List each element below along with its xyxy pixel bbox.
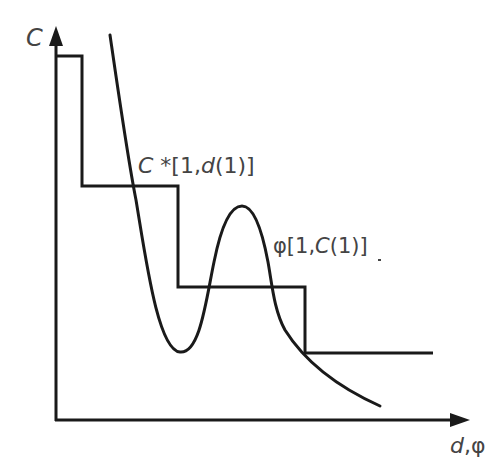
x-axis — [55, 413, 470, 427]
y-axis-label: C — [26, 24, 43, 52]
x-axis-label-rest: ,φ — [464, 433, 486, 458]
curve-phi — [110, 35, 380, 406]
label-phi-dot — [378, 259, 381, 261]
label-c-star: C *[1,d(1)] — [138, 153, 255, 178]
x-axis-label: d,φ — [450, 433, 485, 458]
label-phi: φ[1,C(1)] — [273, 234, 368, 258]
x-axis-label-d: d — [450, 433, 465, 458]
step-function-c-star — [57, 56, 433, 353]
y-axis — [49, 26, 63, 421]
y-axis-arrow-icon — [49, 26, 63, 46]
x-axis-arrow-icon — [450, 413, 470, 427]
diagram-canvas: C d,φ C *[1,d(1)] φ[1,C(1)] — [0, 0, 502, 469]
